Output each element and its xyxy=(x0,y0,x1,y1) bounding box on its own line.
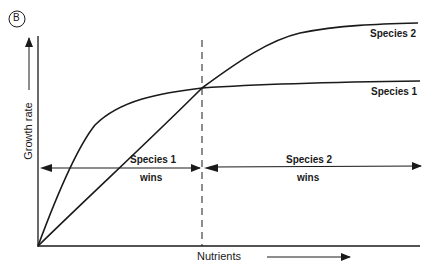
species-1-curve xyxy=(38,81,420,246)
species-2-wins-arrow xyxy=(210,166,421,167)
diagram-canvas xyxy=(0,0,433,271)
species-1-wins-label-line1: Species 1 xyxy=(130,154,176,165)
y-axis-label: Growth rate xyxy=(22,91,34,171)
species-2-wins-label-line1: Species 2 xyxy=(286,154,332,165)
species-2-curve-label: Species 2 xyxy=(370,28,416,39)
species-1-wins-arrow-left-head xyxy=(40,164,52,172)
x-axis-label: Nutrients xyxy=(197,250,241,262)
species-2-wins-label-line2: wins xyxy=(297,172,319,183)
species-2-curve xyxy=(38,23,418,246)
panel-label: B xyxy=(13,12,20,23)
species-2-wins-arrow-left-head xyxy=(204,164,218,172)
species-1-wins-label-line2: wins xyxy=(140,172,162,183)
species-1-curve-label: Species 1 xyxy=(371,86,417,97)
